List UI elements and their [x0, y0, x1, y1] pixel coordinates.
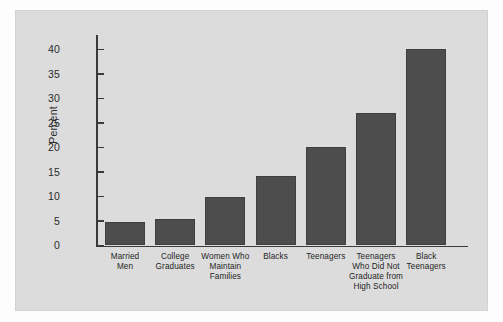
y-tick-label: 20 [20, 142, 60, 153]
bar [105, 222, 145, 246]
y-tick-label: 25 [20, 118, 60, 129]
x-category-label: Black Teenagers [390, 252, 462, 272]
y-tick-mark [98, 73, 104, 75]
y-tick-mark [98, 245, 104, 247]
y-axis-line [96, 35, 98, 247]
y-tick-label: 0 [20, 240, 60, 251]
y-tick-mark [98, 196, 104, 198]
y-tick-label: 15 [20, 167, 60, 178]
y-tick-mark [98, 122, 104, 124]
chart-panel: Percent 0510152025303540 Married MenColl… [16, 11, 487, 310]
bar [406, 49, 446, 246]
bar [356, 113, 396, 246]
bar [256, 176, 296, 246]
y-tick-mark [98, 171, 104, 173]
x-axis-line [96, 246, 468, 248]
figure-canvas: Percent 0510152025303540 Married MenColl… [0, 0, 503, 322]
y-tick-mark [98, 98, 104, 100]
plot-area: Percent 0510152025303540 Married MenColl… [16, 11, 487, 310]
y-tick-mark [98, 49, 104, 51]
y-tick-mark [98, 147, 104, 149]
bar [306, 147, 346, 245]
y-tick-label: 40 [20, 44, 60, 55]
bar [205, 197, 245, 246]
y-tick-label: 35 [20, 69, 60, 80]
bar [155, 219, 195, 245]
y-tick-label: 10 [20, 191, 60, 202]
y-tick-label: 5 [20, 216, 60, 227]
y-tick-mark [98, 220, 104, 222]
y-tick-label: 30 [20, 93, 60, 104]
